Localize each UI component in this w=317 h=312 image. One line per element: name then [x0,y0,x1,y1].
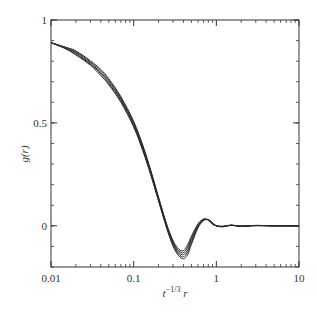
y-axis-label: g(r) [18,145,31,162]
tick-labels: 0.010.111000.51 [33,14,305,284]
series-line-curve-2 [51,43,299,257]
plot-frame [51,20,299,267]
y-tick-label: 0 [42,220,48,232]
x-tick-label: 0.01 [41,272,60,284]
data-curves [51,43,299,259]
series-line-curve-4 [51,43,299,253]
x-tick-label: 10 [294,272,306,284]
x-tick-label: 0.1 [127,272,141,284]
major-ticks [51,20,299,267]
x-tick-label: 1 [214,272,220,284]
minor-ticks [51,20,299,267]
y-tick-label: 0.5 [33,117,47,129]
series-line-curve-1 [51,43,299,259]
y-tick-label: 1 [42,14,48,26]
series-line-curve-5 [51,43,299,251]
x-axis-label: t−1/3 r [163,285,189,299]
pair-correlation-chart: 0.010.111000.51 t−1/3 r g(r) [0,0,317,312]
series-line-curve-3 [51,43,299,255]
